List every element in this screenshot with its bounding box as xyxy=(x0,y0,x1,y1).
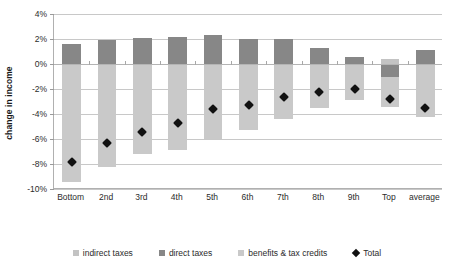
x-axis-tick-labels: Bottom2nd3rd4th5th6th7th8th9thTopaverage xyxy=(53,192,442,210)
zero-minor-tick xyxy=(372,61,373,65)
legend-item[interactable]: Total xyxy=(353,248,381,258)
plot-area xyxy=(53,14,442,189)
bar-group[interactable] xyxy=(345,14,364,188)
zero-minor-tick xyxy=(125,61,126,65)
y-axis-title: change in income xyxy=(0,0,18,205)
x-tick-label: 9th xyxy=(348,192,360,202)
income-decile-chart: change in income 4%2%0%-2%-4%-6%-8%-10% … xyxy=(0,0,454,270)
bar-segment xyxy=(345,57,364,65)
bar-segment xyxy=(204,64,223,139)
legend-swatch-icon xyxy=(73,250,79,256)
y-axis-title-label: change in income xyxy=(4,66,14,139)
legend-item[interactable]: benefits & tax credits xyxy=(238,248,327,258)
bar-segment xyxy=(345,64,364,100)
legend-swatch-icon xyxy=(159,250,165,256)
bars-layer xyxy=(54,14,442,188)
bar-segment xyxy=(62,44,81,64)
gridline xyxy=(54,189,442,190)
x-tick-label: Top xyxy=(382,192,396,202)
bar-group[interactable] xyxy=(204,14,223,188)
zero-minor-tick xyxy=(337,61,338,65)
bar-group[interactable] xyxy=(133,14,152,188)
x-tick-label: 3rd xyxy=(135,192,147,202)
y-tick-label: -10% xyxy=(27,184,47,194)
bar-segment xyxy=(168,37,187,65)
legend-item[interactable]: direct taxes xyxy=(159,248,212,258)
x-tick-label: 6th xyxy=(242,192,254,202)
bar-segment xyxy=(274,39,293,64)
x-tick-label: 7th xyxy=(277,192,289,202)
bar-segment xyxy=(310,64,329,108)
y-tick-label: -6% xyxy=(32,134,47,144)
bar-segment xyxy=(239,64,258,130)
y-tick-label: 0% xyxy=(35,59,47,69)
y-tick-label: -8% xyxy=(32,159,47,169)
legend-label: benefits & tax credits xyxy=(248,248,327,258)
zero-minor-tick xyxy=(266,61,267,65)
bar-segment xyxy=(98,40,117,64)
y-tick-mark xyxy=(50,189,54,190)
x-tick-label: 5th xyxy=(206,192,218,202)
zero-axis-line xyxy=(54,64,442,65)
x-tick-label: Bottom xyxy=(57,192,84,202)
bar-segment xyxy=(416,50,435,64)
y-tick-label: -2% xyxy=(32,84,47,94)
legend-label: indirect taxes xyxy=(83,248,133,258)
bar-segment xyxy=(310,48,329,64)
x-tick-label: 4th xyxy=(171,192,183,202)
legend-item[interactable]: indirect taxes xyxy=(73,248,133,258)
legend-diamond-icon xyxy=(352,249,360,257)
zero-minor-tick xyxy=(160,61,161,65)
x-tick-label: 2nd xyxy=(99,192,113,202)
zero-minor-tick xyxy=(195,61,196,65)
bar-segment xyxy=(239,39,258,64)
bar-group[interactable] xyxy=(310,14,329,188)
bar-segment xyxy=(98,64,117,167)
bar-segment xyxy=(133,64,152,154)
bar-segment xyxy=(381,64,400,77)
bar-group[interactable] xyxy=(98,14,117,188)
bar-segment xyxy=(204,35,223,64)
chart-legend: indirect taxesdirect taxesbenefits & tax… xyxy=(0,243,454,263)
legend-swatch-icon xyxy=(238,250,244,256)
zero-minor-tick xyxy=(408,61,409,65)
x-tick-label: 8th xyxy=(312,192,324,202)
x-tick-label: average xyxy=(409,192,440,202)
legend-label: direct taxes xyxy=(169,248,212,258)
y-tick-label: 2% xyxy=(35,34,47,44)
bar-segment xyxy=(168,64,187,150)
y-tick-label: 4% xyxy=(35,9,47,19)
zero-minor-tick xyxy=(89,61,90,65)
bar-group[interactable] xyxy=(416,14,435,188)
bar-segment xyxy=(133,38,152,64)
legend-label: Total xyxy=(363,248,381,258)
y-tick-label: -4% xyxy=(32,109,47,119)
y-axis-tick-labels: 4%2%0%-2%-4%-6%-8%-10% xyxy=(18,14,51,189)
zero-minor-tick xyxy=(231,61,232,65)
bar-group[interactable] xyxy=(168,14,187,188)
zero-minor-tick xyxy=(302,61,303,65)
